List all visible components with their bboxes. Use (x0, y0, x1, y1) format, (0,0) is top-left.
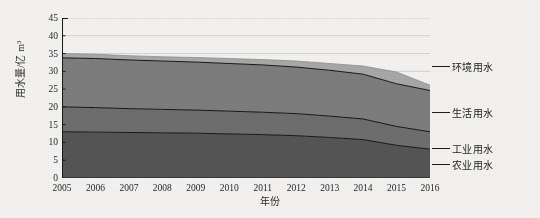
x-tick-label: 2012 (287, 183, 306, 193)
y-tick-label: 40 (49, 31, 59, 41)
legend-leader-line (432, 66, 450, 67)
x-axis-title: 年份 (0, 193, 540, 208)
x-tick-label: 2011 (253, 183, 272, 193)
legend-label-4: 农业用水 (452, 157, 493, 172)
y-tick-label: 35 (49, 49, 59, 59)
y-tick-label: 20 (49, 102, 59, 112)
legend-label-3: 工业用水 (452, 141, 493, 156)
x-tick-label: 2015 (387, 183, 406, 193)
x-tick-label: 2014 (354, 183, 373, 193)
chart-figure: 用水量/亿 m³ 051015202530354045 200520062007… (0, 0, 540, 218)
y-tick-label: 30 (49, 66, 59, 76)
y-tick-label: 0 (53, 173, 58, 183)
x-tick-label: 2006 (86, 183, 105, 193)
legend-leader-line (432, 148, 450, 149)
y-tick-label: 15 (49, 120, 59, 130)
stacked-area-svg (62, 18, 430, 178)
legend-label-2: 生活用水 (452, 105, 493, 120)
legend-label-1: 环境用水 (452, 59, 493, 74)
y-tick-label: 5 (53, 155, 58, 165)
x-tick-label: 2010 (220, 183, 239, 193)
area-bands (62, 54, 430, 178)
y-axis-title: 用水量/亿 m³ (12, 15, 27, 125)
legend-leader-line (432, 164, 450, 165)
x-tick-label: 2008 (153, 183, 172, 193)
x-tick-label: 2007 (119, 183, 138, 193)
legend-leader-line (432, 112, 450, 113)
y-tick-label: 45 (49, 13, 59, 23)
x-tick-label: 2013 (320, 183, 339, 193)
x-tick-label: 2009 (186, 183, 205, 193)
x-tick-label: 2005 (53, 183, 72, 193)
y-tick-label: 25 (49, 84, 59, 94)
plot-area: 051015202530354045 200520062007200820092… (62, 18, 430, 178)
y-tick-label: 10 (49, 137, 59, 147)
x-tick-label: 2016 (421, 183, 440, 193)
